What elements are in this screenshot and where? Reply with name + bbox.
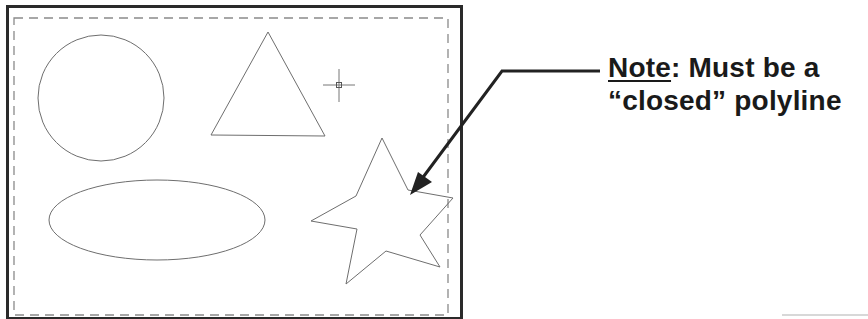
note-line-1: Note: Must be a (608, 51, 842, 84)
dashed-boundary (14, 18, 448, 315)
note-line-2: “closed” polyline (608, 84, 842, 117)
callout-note: Note: Must be a “closed” polyline (608, 51, 842, 117)
star-shape (311, 138, 453, 284)
note-label: Note (608, 52, 671, 83)
drawing-frame (8, 7, 462, 319)
note-text: : Must be a (671, 52, 819, 83)
circle-shape (38, 35, 164, 161)
triangle-shape (211, 32, 325, 136)
ellipse-shape (49, 180, 265, 260)
crosshair-cursor-icon (323, 69, 355, 102)
diagram-canvas (0, 0, 868, 319)
callout-arrow-icon (410, 71, 600, 195)
footer-smudge (782, 314, 868, 316)
